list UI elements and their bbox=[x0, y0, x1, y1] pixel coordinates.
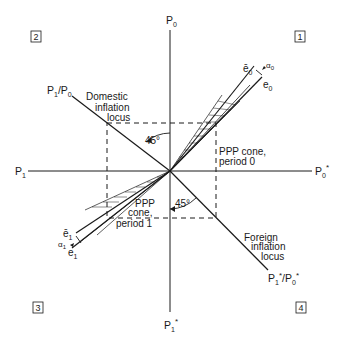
svg-text:3: 3 bbox=[35, 303, 40, 313]
alpha-0-label: α0 bbox=[266, 61, 275, 71]
quadrant-2-marker: 2 bbox=[31, 31, 41, 42]
ppp-cone-period-1 bbox=[70, 171, 170, 248]
cone-1-label-2: cone, bbox=[128, 207, 152, 218]
domestic-locus-label-3: locus bbox=[107, 112, 130, 123]
cone-1-label-3: period 1 bbox=[116, 218, 153, 229]
quadrant-3-marker: 3 bbox=[33, 302, 43, 313]
foreign-inflation-locus-line bbox=[170, 171, 268, 270]
svg-text:1: 1 bbox=[297, 32, 302, 42]
e-0-label: e0 bbox=[263, 79, 273, 92]
domestic-locus-endpoint-label: P1/P0 bbox=[47, 84, 72, 98]
quadrant-4-marker: 4 bbox=[296, 302, 306, 313]
e-bar-0-label: ē0 bbox=[243, 63, 253, 76]
axis-label-left: P1 bbox=[15, 165, 26, 179]
axis-label-right: P0* bbox=[315, 163, 329, 179]
foreign-locus-endpoint-label: P1*/P0* bbox=[268, 271, 299, 286]
cone-0-label-2: period 0 bbox=[219, 156, 256, 167]
svg-text:2: 2 bbox=[33, 32, 38, 42]
foreign-locus-label-3: locus bbox=[261, 251, 284, 262]
quadrant-1-marker: 1 bbox=[295, 31, 305, 42]
axis-label-top: P0 bbox=[166, 14, 177, 28]
svg-text:4: 4 bbox=[298, 303, 303, 313]
axis-label-bottom: P1* bbox=[164, 317, 178, 333]
e-bar-1-label: ē1 bbox=[63, 228, 73, 241]
foreign-angle-label: 45° bbox=[175, 198, 190, 209]
e-1-label: e1 bbox=[68, 247, 78, 260]
domestic-angle-label: 45° bbox=[145, 135, 160, 146]
domestic-locus-label-1: Domestic bbox=[86, 91, 128, 102]
alpha-1-label: α1 bbox=[58, 240, 67, 250]
ppp-diagram: 1 2 3 4 P0 P1* P1 P0* P1/P0 Domestic inf… bbox=[0, 0, 345, 345]
